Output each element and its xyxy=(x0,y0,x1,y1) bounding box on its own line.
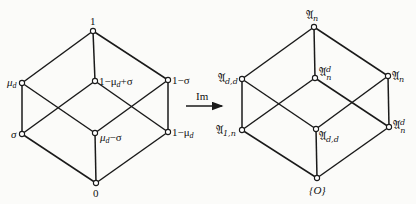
label-one-minus-mu-plus-sigma: 1−μd+σ xyxy=(99,75,133,89)
label-o: {O} xyxy=(309,184,326,196)
node-a-dd-center xyxy=(313,126,318,131)
label-a-n-d-right: 𝔄dn xyxy=(393,118,405,135)
lattice-diagram: 1 μd 1−μd+σ 1−σ σ μd−σ 1−μd 0 Im xyxy=(0,0,416,204)
right-lattice-labels: 𝔄n 𝔄d,d 𝔄dn 𝔄n 𝔄1,n 𝔄d,d 𝔄dn {O} xyxy=(216,9,405,196)
left-lattice-edges xyxy=(22,31,168,183)
node-sigma xyxy=(19,131,24,136)
edge xyxy=(22,31,93,83)
node-a-n-d-right xyxy=(386,124,391,129)
edge xyxy=(242,27,314,79)
node-a-n-d-center xyxy=(312,75,317,80)
label-top: 1 xyxy=(90,15,96,27)
right-lattice-nodes xyxy=(239,24,391,180)
node-mu-minus-sigma xyxy=(92,130,97,135)
arrow-label: Im xyxy=(196,90,209,102)
node-a-n-top xyxy=(311,24,316,29)
label-a-1n: 𝔄1,n xyxy=(216,124,236,138)
right-lattice-edges xyxy=(242,27,389,178)
node-bottom xyxy=(93,180,98,185)
node-top xyxy=(90,28,95,33)
label-one-minus-sigma: 1−σ xyxy=(172,74,190,86)
edge xyxy=(22,134,96,183)
node-a-dd-left xyxy=(239,76,244,81)
node-a-1n xyxy=(239,127,244,132)
node-a-n-right xyxy=(385,73,390,78)
im-arrow: Im xyxy=(186,90,222,106)
edge xyxy=(93,31,95,81)
edge xyxy=(95,133,96,183)
label-sigma: σ xyxy=(11,128,17,140)
label-mu-minus-sigma: μd−σ xyxy=(99,131,122,145)
label-a-n-d-center: 𝔄dn xyxy=(319,65,331,82)
node-one-minus-sigma xyxy=(165,77,170,82)
edge xyxy=(93,31,168,80)
node-one-minus-mu xyxy=(165,129,170,134)
edge xyxy=(316,129,317,178)
label-bottom: 0 xyxy=(93,187,99,199)
edge xyxy=(316,76,388,129)
left-lattice-labels: 1 μd 1−μd+σ 1−σ σ μd−σ 1−μd 0 xyxy=(6,15,195,199)
label-a-dd-center: 𝔄d,d xyxy=(319,130,339,144)
label-one-minus-mu: 1−μd xyxy=(172,126,195,140)
node-mu-d xyxy=(19,80,24,85)
label-a-n-top: 𝔄n xyxy=(306,9,318,23)
label-a-n-right: 𝔄n xyxy=(392,70,404,84)
edge xyxy=(314,27,315,78)
label-mu-d: μd xyxy=(6,76,18,90)
label-a-dd-left: 𝔄d,d xyxy=(218,72,238,86)
edge xyxy=(242,130,317,178)
node-one-minus-mu-plus-sigma xyxy=(92,78,97,83)
edge xyxy=(388,76,389,127)
node-o xyxy=(314,175,319,180)
